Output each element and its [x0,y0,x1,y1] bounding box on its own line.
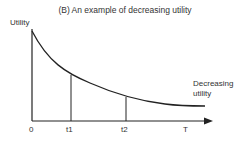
tick-label-0: 0 [29,125,33,134]
tick-label-t1: t1 [66,125,73,134]
decreasing-utility-curve [32,31,205,106]
x-axis-arrow-icon [204,118,213,125]
tick-label-t2: t2 [121,125,128,134]
utility-diagram [0,0,250,142]
tick-label-T: T [183,125,188,134]
curve-label-line2: utility [193,89,211,98]
curve-label-line1: Decreasing [193,79,233,88]
